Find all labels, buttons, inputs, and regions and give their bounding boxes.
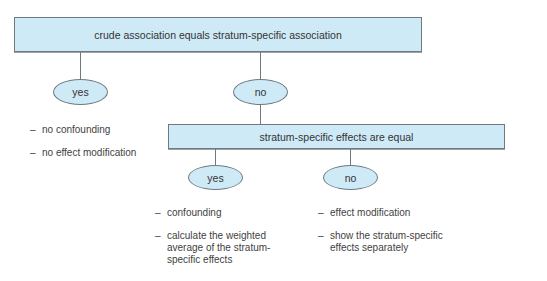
answer-no-root: no — [233, 79, 288, 105]
connector-stratum-yes — [215, 149, 216, 166]
outcome-list-stratum-no: effect modification show the stratum-spe… — [318, 207, 448, 265]
outcome-item: effect modification — [318, 207, 448, 219]
decision-label-stratum-effects-equal: stratum-specific effects are equal — [260, 131, 414, 143]
outcome-list-root-yes: no confounding no effect modification — [30, 124, 170, 170]
outcome-item: no confounding — [30, 124, 170, 136]
answer-no-stratum: no — [323, 165, 378, 190]
outcome-item: calculate the weighted average of the st… — [155, 230, 280, 266]
answer-label: no — [255, 86, 267, 98]
answer-yes-root: yes — [53, 79, 108, 105]
outcome-item: no effect modification — [30, 147, 170, 159]
decision-label-crude-vs-stratum: crude association equals stratum-specifi… — [94, 29, 341, 41]
outcome-list-stratum-yes: confounding calculate the weighted avera… — [155, 207, 280, 277]
answer-label: no — [345, 172, 357, 184]
outcome-item: confounding — [155, 207, 280, 219]
answer-yes-stratum: yes — [188, 165, 243, 190]
decision-box-stratum-effects-equal: stratum-specific effects are equal — [168, 124, 505, 149]
outcome-item: show the stratum-specific effects separa… — [318, 230, 448, 254]
answer-label: yes — [207, 172, 223, 184]
connector-stratum-no — [350, 149, 351, 166]
answer-label: yes — [72, 86, 88, 98]
decision-box-crude-vs-stratum: crude association equals stratum-specifi… — [14, 17, 422, 52]
connector-root-yes — [80, 52, 81, 80]
